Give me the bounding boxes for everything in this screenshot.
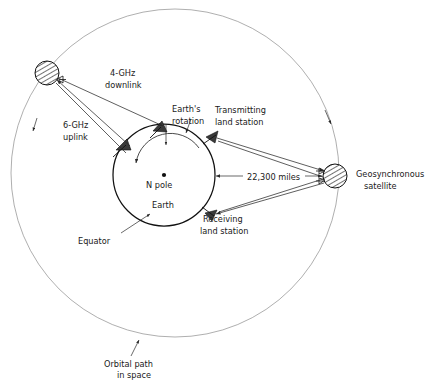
orbital-path-leader <box>131 340 139 356</box>
north-pole-label: N pole <box>146 180 172 190</box>
satellite-diagram: 4-GHz downlink 6-GHz uplink Earth's rota… <box>0 0 433 381</box>
geosync-label-line1: Geosynchronous <box>356 169 424 179</box>
uplink-label-line1: 6-GHz <box>63 120 88 130</box>
rotation-label-line2: rotation <box>172 116 204 126</box>
receiving-label-line1: Receiving <box>203 214 243 224</box>
earth-label: Earth <box>152 200 174 210</box>
orbital-path-label-line1: Orbital path <box>104 359 153 369</box>
orbit-direction-arrow-left <box>33 118 37 131</box>
rotation-label-line1: Earth's <box>172 104 200 114</box>
uplink-beam-lower <box>56 83 126 153</box>
transmitting-label-line2: land station <box>215 117 263 127</box>
transmitting-label-line1: Transmitting <box>214 105 266 115</box>
equator-label: Equator <box>78 236 111 246</box>
receive-beam <box>216 183 324 214</box>
orbit-direction-arrow-right <box>325 110 331 124</box>
uplink-label-line2: uplink <box>63 132 88 142</box>
distance-label: 22,300 miles <box>247 172 300 182</box>
satellite-right <box>323 164 347 188</box>
north-pole-dot <box>162 173 166 177</box>
downlink-label-line2: downlink <box>105 80 142 90</box>
transmit-beam <box>217 138 324 171</box>
geosync-label-line2: satellite <box>364 181 397 191</box>
satellite-left <box>35 61 59 85</box>
antenna-transmitting <box>203 131 218 144</box>
receiving-label-line2: land station <box>200 226 248 236</box>
diagram-canvas: 4-GHz downlink 6-GHz uplink Earth's rota… <box>0 0 433 381</box>
orbital-path-label-line2: in space <box>117 370 151 380</box>
downlink-label-line1: 4-GHz <box>110 68 135 78</box>
receive-beam-secondary <box>219 179 323 212</box>
